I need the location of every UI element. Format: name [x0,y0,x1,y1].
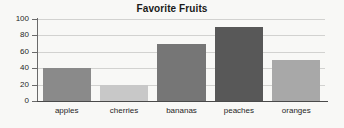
gridline-100 [38,19,325,20]
bar-bananas [157,44,205,101]
x-axis-label-apples: apples [38,106,95,116]
x-axis-label-peaches: peaches [210,106,267,116]
bar-peaches [215,27,263,101]
plot-area [38,19,325,101]
y-tick-label-60: 60 [0,48,29,56]
x-axis-label-cherries: cherries [95,106,152,116]
x-axis-line [32,101,328,102]
chart-title: Favorite Fruits [0,3,344,15]
bar-apples [43,68,91,101]
y-tick-mark-100 [32,19,37,20]
y-tick-label-20: 20 [0,81,29,89]
y-tick-label-80: 80 [0,31,29,39]
y-tick-mark-60 [32,52,37,53]
y-tick-mark-40 [32,68,37,69]
y-tick-mark-0 [32,101,37,102]
bar-cherries [100,85,148,101]
bar-chart: Favorite Fruits 020406080100 applescherr… [0,0,344,128]
gridline-80 [38,35,325,36]
y-tick-label-0: 0 [0,97,29,105]
x-axis-label-bananas: bananas [153,106,210,116]
y-tick-label-100: 100 [0,15,29,23]
x-axis-label-oranges: oranges [268,106,325,116]
y-tick-label-40: 40 [0,64,29,72]
y-tick-mark-20 [32,85,37,86]
bar-oranges [272,60,320,101]
y-tick-mark-80 [32,35,37,36]
